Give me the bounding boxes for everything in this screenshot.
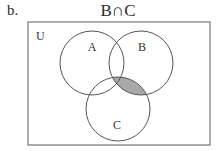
universe-label: U (36, 29, 45, 43)
venn-diagram: U A B C (0, 0, 218, 151)
set-label-b: B (138, 40, 146, 54)
set-label-c: C (113, 118, 121, 132)
set-label-a: A (88, 40, 97, 54)
